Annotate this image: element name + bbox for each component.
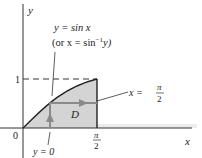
right-boundary-two: 2 <box>157 94 162 104</box>
region-label: D <box>70 108 79 120</box>
x-tick-pi: π <box>94 130 99 140</box>
x-tick-two: 2 <box>94 141 99 151</box>
y-tick-one: 1 <box>15 74 20 85</box>
y-axis-label: y <box>27 4 33 16</box>
curve-label-line2: (or x = sin−1y) <box>52 36 112 49</box>
right-boundary-leader <box>97 92 128 101</box>
x-axis-label: x <box>184 135 190 147</box>
bottom-leader <box>48 132 50 145</box>
curve-label-line1: y = sin x <box>53 22 91 33</box>
bottom-boundary-label: y = 0 <box>32 146 54 157</box>
right-boundary-pi: π <box>157 82 162 92</box>
origin-label: 0 <box>13 130 18 141</box>
axis-shadow <box>97 124 197 128</box>
region-diagram: y x 0 1 π 2 y = sin x (or x = sin−1y) D … <box>0 0 202 158</box>
curve-leader <box>52 52 55 96</box>
right-boundary-label: x = <box>128 87 143 98</box>
